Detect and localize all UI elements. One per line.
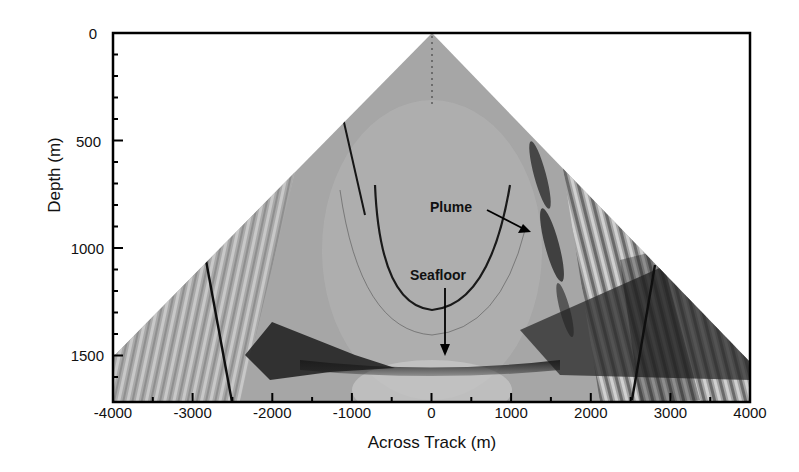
x-tick-1000: 1000 [494, 404, 527, 421]
x-tick--1000: -1000 [333, 404, 371, 421]
x-tick--4000: -4000 [94, 404, 132, 421]
y-tick-labels: 0 500 1000 1500 [71, 25, 104, 364]
plume-label: Plume [430, 199, 472, 215]
x-axis-label: Across Track (m) [368, 433, 496, 452]
y-tick-1000: 1000 [71, 240, 104, 257]
seafloor-label: Seafloor [410, 267, 467, 283]
sonar-figure: 0 500 1000 1500 -4000 -3000 -2000 -1000 … [0, 0, 799, 472]
x-tick-2000: 2000 [574, 404, 607, 421]
y-tick-500: 500 [76, 133, 101, 150]
x-tick-0: 0 [427, 404, 435, 421]
sonar-swath-image [113, 33, 750, 420]
x-tick--2000: -2000 [253, 404, 291, 421]
y-axis-ticks [113, 33, 123, 377]
x-tick-4000: 4000 [733, 404, 766, 421]
x-tick--3000: -3000 [173, 404, 211, 421]
y-tick-1500: 1500 [71, 347, 104, 364]
y-tick-0: 0 [89, 25, 97, 42]
y-axis-label: Depth (m) [45, 137, 64, 213]
x-tick-labels: -4000 -3000 -2000 -1000 0 1000 2000 3000… [94, 404, 767, 421]
x-tick-3000: 3000 [654, 404, 687, 421]
